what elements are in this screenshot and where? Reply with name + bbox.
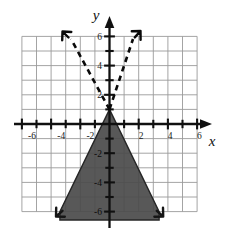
- xtick-label-2: 2: [139, 131, 144, 141]
- y-axis-arrow: [105, 16, 115, 28]
- x-axis-arrow: [200, 119, 212, 129]
- ytick-label-minus4: -4: [94, 178, 102, 188]
- dashed-left-ray: [71, 39, 110, 109]
- xtick-label-minus4: -4: [57, 131, 65, 141]
- ytick-label-minus2: -2: [94, 149, 102, 159]
- xtick-label-4: 4: [168, 131, 173, 141]
- graph-canvas: -6 -4 -2 2 4 6 6 4 2 -2 -4 -6 x y: [0, 0, 226, 232]
- ytick-label-2: 2: [97, 90, 102, 100]
- ytick-label-4: 4: [97, 61, 102, 71]
- ytick-label-minus6: -6: [94, 207, 102, 217]
- y-axis-label: y: [91, 7, 100, 23]
- x-axis-label: x: [208, 133, 216, 149]
- ytick-label-6: 6: [97, 32, 102, 42]
- xtick-label-6: 6: [197, 131, 202, 141]
- xtick-label-minus6: -6: [28, 131, 36, 141]
- coordinate-plane-figure: -6 -4 -2 2 4 6 6 4 2 -2 -4 -6 x y: [0, 0, 226, 232]
- arrow-up-left-icon: [62, 32, 71, 41]
- arrow-up-right-icon: [132, 31, 141, 40]
- xtick-label-minus2: -2: [86, 131, 94, 141]
- dashed-right-ray: [110, 39, 134, 109]
